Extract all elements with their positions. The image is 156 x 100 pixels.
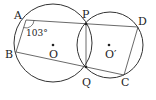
angle-label-a: 103° [26, 28, 48, 38]
point-q [85, 66, 88, 69]
circle-o [14, 4, 92, 82]
segment-ab [16, 20, 26, 52]
center-o-dot [52, 44, 55, 47]
label-o: O [49, 48, 58, 61]
segment-dc [124, 27, 138, 75]
label-o-prime: O′ [105, 48, 117, 61]
point-p [85, 23, 88, 26]
center-o-prime-dot [108, 44, 111, 47]
label-c: C [121, 76, 129, 89]
label-b: B [5, 48, 13, 61]
label-d: D [138, 15, 147, 28]
label-p: P [82, 8, 90, 21]
geometry-diagram: A P D B Q C O O′ 103° [0, 0, 156, 100]
label-q: Q [82, 76, 91, 89]
segment-ad [26, 20, 138, 27]
label-a: A [13, 9, 23, 22]
